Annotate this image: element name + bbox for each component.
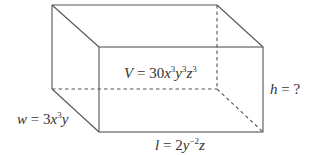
length-coef: 2 — [175, 137, 183, 153]
volume-coef: 30 — [149, 65, 164, 81]
rectangular-prism-diagram: V = 30x3y3z3 h = ? w = 3x3y l = 2y−2z — [0, 0, 314, 155]
height-var: h — [270, 81, 278, 97]
volume-var: V — [124, 65, 133, 81]
top-left-depth-edge — [52, 5, 99, 47]
bottom-right-hidden-depth-edge — [217, 89, 263, 132]
height-value: ? — [293, 81, 300, 97]
volume-z-exp: 3 — [192, 64, 197, 74]
length-y-exp: −2 — [189, 136, 199, 146]
volume-eq: = — [133, 65, 149, 81]
length-eq: = — [159, 137, 175, 153]
volume-x: x — [164, 65, 171, 81]
height-eq: = — [278, 81, 294, 97]
length-z: z — [199, 137, 205, 153]
width-label: w = 3x3y — [17, 112, 68, 127]
width-y: y — [62, 111, 69, 127]
height-label: h = ? — [270, 82, 300, 97]
width-var: w — [17, 111, 27, 127]
volume-label: V = 30x3y3z3 — [124, 66, 197, 81]
width-eq: = — [27, 111, 43, 127]
length-label: l = 2y−2z — [155, 138, 205, 153]
volume-y: y — [175, 65, 182, 81]
top-right-depth-edge — [217, 5, 263, 47]
